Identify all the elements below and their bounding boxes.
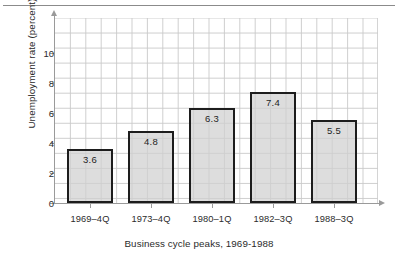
bar-2[interactable]: 4.8 [128,131,174,203]
bar-value-label: 6.3 [191,113,233,124]
bar-value-label: 7.4 [252,97,294,108]
y-axis-title: Unemployment rate (percent) [26,0,37,144]
y-axis-line [54,14,55,204]
x-tick-mark-3 [212,203,213,208]
x-axis-line [55,203,382,204]
bar-value-label: 5.5 [313,125,355,136]
y-axis-arrow-icon [51,10,57,16]
x-tick-mark-5 [334,203,335,208]
bar-1[interactable]: 3.6 [67,149,113,203]
x-tick-mark-2 [151,203,152,208]
x-tick-mark-4 [273,203,274,208]
x-axis-arrow-icon [379,200,385,206]
bar-4[interactable]: 7.4 [250,92,296,203]
x-tick-label-5: 1988–3Q [294,214,374,224]
y-tick-label-0: 0 [32,198,54,209]
x-tick-mark-1 [90,203,91,208]
bar-5[interactable]: 5.5 [311,120,357,203]
top-rule-divider [3,5,395,6]
chart-figure: 3.6 4.8 6.3 7.4 5.5 0 2 4 6 8 10 [0,0,398,261]
bars-container: 3.6 4.8 6.3 7.4 5.5 [55,18,378,203]
bar-value-label: 3.6 [69,154,111,165]
x-axis-title: Business cycle peaks, 1969-1988 [0,238,398,249]
y-tick-label-2: 2 [32,167,54,178]
plot-area: 3.6 4.8 6.3 7.4 5.5 [55,18,378,203]
bar-value-label: 4.8 [130,136,172,147]
bar-3[interactable]: 6.3 [189,108,235,203]
